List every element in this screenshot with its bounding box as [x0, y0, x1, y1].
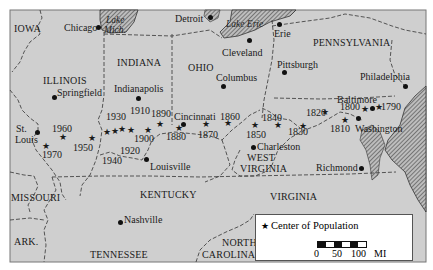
population-center-year: 1920	[120, 146, 140, 156]
population-center-year: 1950	[73, 143, 93, 153]
state-label: INDIANA	[117, 58, 161, 68]
city-label: Nashville	[124, 215, 162, 225]
population-center-year: 1820	[306, 108, 326, 118]
star-icon: ★	[103, 128, 111, 137]
city-label: Springfield	[57, 88, 102, 98]
state-label: IOWA	[14, 24, 41, 34]
state-label: WEST	[247, 153, 275, 163]
population-center-year: 1800	[340, 102, 360, 112]
state-label: VIRGINIA	[270, 192, 317, 202]
city-dot-icon	[359, 166, 364, 171]
population-center-year: 1890	[151, 109, 171, 119]
city-label: Louis	[15, 135, 38, 145]
city-label: Pittsburgh	[277, 60, 318, 70]
population-center-year: 1900	[134, 134, 154, 144]
population-center-year: 1910	[130, 106, 150, 116]
city-label: Charleston	[257, 142, 300, 152]
city-dot-icon	[277, 22, 282, 27]
scale-bar	[317, 241, 367, 248]
state-label: TENNESSEE	[90, 250, 148, 260]
star-icon: ★	[59, 133, 67, 142]
population-center-year: 1940	[102, 156, 122, 166]
scale-tick-label: 100	[351, 248, 366, 259]
scale-tick-label: 50	[332, 248, 342, 259]
population-center-year: 1860	[220, 112, 240, 122]
city-label: St.	[16, 124, 27, 134]
city-dot-icon	[403, 84, 408, 89]
city-dot-icon	[136, 96, 141, 101]
city-label: Philadelphia	[360, 72, 410, 82]
city-dot-icon	[247, 38, 252, 43]
state-label: VIRGINIA	[240, 164, 287, 174]
city-dot-icon	[118, 220, 123, 225]
state-label: NORTH	[222, 238, 257, 248]
population-center-year: 1840	[262, 113, 282, 123]
city-label: Richmond	[316, 163, 358, 173]
city-dot-icon	[52, 95, 57, 100]
state-label: ILLINOIS	[43, 76, 87, 86]
state-label: PENNSYLVANIA	[313, 38, 390, 48]
state-label: CAROLINA	[202, 250, 255, 260]
legend-label: Center of Population	[271, 220, 359, 231]
state-label: KENTUCKY	[140, 190, 197, 200]
population-center-year: 1930	[106, 112, 126, 122]
city-label: Detroit	[175, 14, 203, 24]
star-icon: ★	[127, 126, 135, 135]
population-center-year: 1870	[198, 130, 218, 140]
city-dot-icon	[282, 70, 287, 75]
population-center-year: 1850	[246, 130, 266, 140]
city-label: Indianapolis	[114, 84, 163, 94]
scale-tick-label: MI	[374, 248, 386, 259]
population-center-year: 1880	[166, 132, 186, 142]
population-center-year: 1960	[52, 124, 72, 134]
scale-tick-label: 0	[314, 248, 319, 259]
lake-label: Lake Erie	[226, 20, 263, 30]
city-dot-icon	[356, 116, 361, 121]
city-label: Chicago	[64, 23, 97, 33]
population-center-year: 1830	[288, 127, 308, 137]
city-dot-icon	[251, 145, 256, 150]
city-dot-icon	[221, 84, 226, 89]
city-label: Erie	[274, 29, 291, 39]
state-label: ARK.	[14, 237, 38, 247]
star-icon: ★	[202, 120, 210, 129]
population-center-year: 1790	[381, 102, 401, 112]
city-dot-icon	[208, 15, 213, 20]
city-dot-icon	[370, 106, 375, 111]
population-center-year: 1970	[42, 150, 62, 160]
city-dot-icon	[144, 157, 149, 162]
city-label: Louisville	[150, 162, 191, 172]
population-center-year: 1810	[330, 124, 350, 134]
star-icon: ★	[118, 125, 126, 134]
lake-label: Mich.	[104, 26, 126, 36]
state-label: OHIO	[188, 63, 214, 73]
city-label: Washington	[355, 124, 403, 134]
legend: ★ Center of Population 050100MI	[255, 214, 413, 261]
star-icon: ★	[261, 221, 269, 231]
city-label: Cleveland	[222, 48, 263, 58]
star-icon: ★	[361, 105, 369, 114]
star-icon: ★	[111, 127, 119, 136]
state-label: MISSOURI	[11, 193, 60, 203]
city-label: Columbus	[216, 73, 257, 83]
star-icon: ★	[156, 120, 164, 129]
